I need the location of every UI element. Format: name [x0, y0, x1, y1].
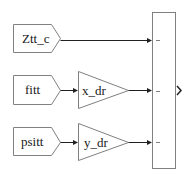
arrowhead-icon	[73, 88, 78, 93]
signal-line-psitt-to-y-dr[interactable]	[61, 140, 79, 145]
from-block-label: psitt	[21, 134, 44, 149]
gain-block-y-dr[interactable]: y_dr	[79, 124, 129, 161]
mux-block-shape	[153, 13, 176, 169]
arrowhead-icon	[147, 88, 152, 93]
gain-block-x-dr[interactable]: x_dr	[79, 72, 129, 109]
from-block-psitt[interactable]: psitt	[14, 128, 61, 156]
mux-block[interactable]	[153, 13, 176, 169]
signal-line-ztt-c-to-mux[interactable]	[61, 38, 153, 43]
mux-output-port-chevron-icon[interactable]	[177, 86, 181, 95]
from-block-label: Ztt_c	[22, 31, 50, 46]
arrowhead-icon	[73, 140, 78, 145]
from-block-ztt-c[interactable]: Ztt_c	[14, 25, 61, 53]
from-block-fitt[interactable]: fitt	[14, 76, 61, 105]
gain-block-label: y_dr	[84, 135, 109, 150]
signal-line-y-dr-to-mux[interactable]	[129, 140, 153, 145]
gain-block-label: x_dr	[82, 83, 107, 98]
arrowhead-icon	[147, 140, 152, 145]
block-diagram-canvas: Ztt_c fitt psitt x_dr y_dr	[0, 0, 189, 176]
arrowhead-icon	[147, 38, 152, 43]
signal-line-x-dr-to-mux[interactable]	[129, 88, 153, 93]
signal-line-fitt-to-x-dr[interactable]	[61, 88, 79, 93]
from-block-label: fitt	[25, 82, 41, 97]
